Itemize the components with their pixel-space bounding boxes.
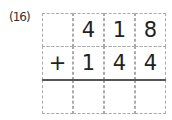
operator-plus: +	[42, 46, 73, 80]
problem-number: (16)	[9, 10, 30, 24]
cell-r0-c0	[42, 13, 73, 47]
answer-cell-2[interactable]	[104, 80, 135, 114]
cell-r1-c3: 4	[135, 46, 166, 80]
addition-grid: 4 1 8 + 1 4 4	[42, 13, 166, 114]
cell-r0-c2: 1	[104, 13, 135, 47]
answer-cell-1[interactable]	[73, 80, 104, 114]
cell-r1-c1: 1	[73, 46, 104, 80]
answer-cell-3[interactable]	[135, 80, 166, 114]
cell-r1-c2: 4	[104, 46, 135, 80]
sum-line	[42, 79, 166, 81]
answer-cell-0[interactable]	[42, 80, 73, 114]
cell-r0-c3: 8	[135, 13, 166, 47]
cell-r0-c1: 4	[73, 13, 104, 47]
